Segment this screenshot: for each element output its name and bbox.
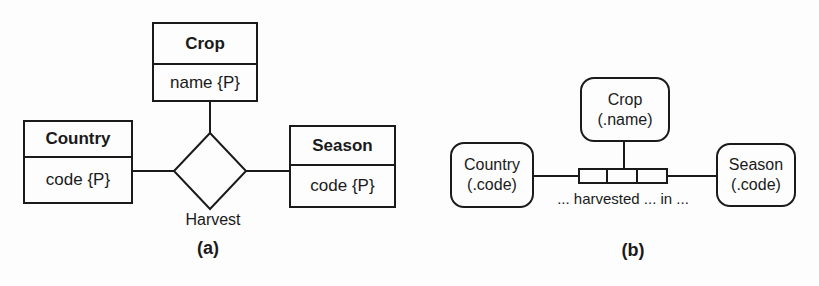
object-name-country: Country	[464, 155, 520, 175]
relationship-diamond	[174, 133, 246, 209]
entity-name-crop: Crop	[154, 24, 256, 65]
object-ref-crop: (.name)	[597, 110, 652, 130]
object-name-crop: Crop	[608, 90, 643, 110]
object-box-country: Country (.code)	[450, 142, 534, 208]
entity-attribute-crop: name {P}	[154, 65, 256, 100]
entity-box-country: Country code {P}	[23, 120, 133, 204]
object-ref-country: (.code)	[467, 175, 517, 195]
entity-name-season: Season	[291, 127, 394, 166]
entity-box-season: Season code {P}	[289, 125, 396, 208]
object-name-season: Season	[729, 155, 783, 175]
role-box-season	[638, 168, 668, 184]
caption-b: (b)	[613, 240, 653, 261]
predicate-role-boxes	[578, 168, 668, 184]
object-box-crop: Crop (.name)	[580, 77, 670, 142]
predicate-reading: ... harvested ... in ...	[533, 190, 713, 207]
entity-attribute-country: code {P}	[25, 158, 131, 202]
role-box-crop	[608, 168, 638, 184]
entity-box-crop: Crop name {P}	[152, 22, 258, 102]
entity-name-country: Country	[25, 122, 131, 158]
relationship-label: Harvest	[163, 211, 263, 229]
entity-attribute-season: code {P}	[291, 166, 394, 206]
object-ref-season: (.code)	[731, 175, 781, 195]
figure-container: Crop name {P} Country code {P} Season co…	[0, 0, 819, 286]
object-box-season: Season (.code)	[716, 143, 796, 207]
caption-a: (a)	[188, 238, 228, 259]
role-box-country	[578, 168, 608, 184]
